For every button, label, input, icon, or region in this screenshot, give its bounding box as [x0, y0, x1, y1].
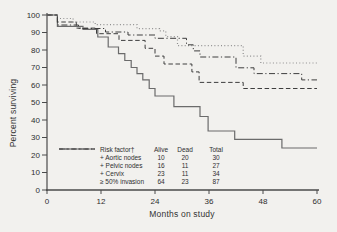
alive-value: 64	[148, 178, 174, 186]
legend-table: Risk factor† Alive Dead Total + Aortic n…	[58, 146, 236, 186]
y-tick-label: 20	[31, 151, 40, 160]
legend-row-aortic-nodes: + Aortic nodes 10 20 30	[58, 154, 236, 162]
y-tick-label: 40	[31, 116, 40, 125]
x-tick-label: 36	[205, 197, 214, 206]
dotted-line-sample-icon	[58, 171, 100, 177]
total-value: 30	[196, 154, 236, 162]
y-tick-label: 70	[31, 63, 40, 72]
alive-value: 16	[148, 162, 174, 170]
y-tick-label: 90	[31, 28, 40, 37]
y-tick-label: 10	[31, 168, 40, 177]
y-tick-label: 30	[31, 133, 40, 142]
alive-value: 23	[148, 170, 174, 178]
dashdot-line-sample-icon	[58, 179, 100, 185]
dead-value: 11	[174, 162, 196, 170]
legend-col-alive: Alive	[148, 146, 174, 154]
y-tick-label: 60	[31, 81, 40, 90]
x-tick-label: 24	[151, 197, 160, 206]
dashed-line-sample-icon	[58, 163, 100, 169]
curve-50-invasion	[47, 15, 317, 80]
legend-col-dead: Dead	[174, 146, 196, 154]
legend-label: ≥ 50% invasion	[100, 178, 148, 186]
x-tick-label: 0	[45, 197, 50, 206]
curve-cervix	[47, 15, 317, 63]
y-axis-title: Percent surviving	[8, 79, 18, 148]
y-tick-label: 100	[27, 11, 41, 20]
total-value: 27	[196, 162, 236, 170]
legend-row-pelvic-nodes: + Pelvic nodes 16 11 27	[58, 162, 236, 170]
legend-label: + Pelvic nodes	[100, 162, 148, 170]
x-tick-label: 60	[313, 197, 322, 206]
legend-row-invasion: ≥ 50% invasion 64 23 87	[58, 178, 236, 186]
legend-risk-factor-header: Risk factor†	[100, 146, 148, 154]
dead-value: 23	[174, 178, 196, 186]
curve-aortic-nodes	[47, 15, 317, 148]
total-value: 34	[196, 170, 236, 178]
dead-value: 11	[174, 170, 196, 178]
x-tick-label: 12	[97, 197, 106, 206]
survival-chart-canvas: 010203040506070809010001224364860	[0, 0, 337, 232]
total-value: 87	[196, 178, 236, 186]
x-axis-title: Months on study	[47, 209, 317, 219]
y-tick-label: 0	[36, 186, 41, 195]
y-tick-label: 80	[31, 46, 40, 55]
alive-value: 10	[148, 154, 174, 162]
curve-pelvic-nodes	[47, 15, 317, 89]
survival-figure: 010203040506070809010001224364860 Percen…	[0, 0, 337, 232]
legend-label: + Aortic nodes	[100, 154, 148, 162]
legend-row-cervix: + Cervix 23 11 34	[58, 170, 236, 178]
solid-line-sample-icon	[58, 155, 100, 161]
dead-value: 20	[174, 154, 196, 162]
legend-col-total: Total	[196, 146, 236, 154]
legend-label: + Cervix	[100, 170, 148, 178]
x-tick-label: 48	[259, 197, 268, 206]
y-tick-label: 50	[31, 98, 40, 107]
